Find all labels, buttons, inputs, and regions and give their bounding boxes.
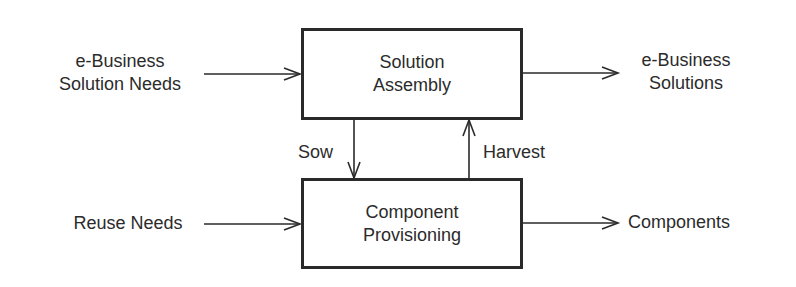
solution-needs-line2: Solution Needs [59,74,181,94]
components-label: Components [628,211,764,234]
solutions-label: e-Business Solutions [628,49,744,95]
components-line1: Components [628,212,730,232]
arrow-reuse-needs-to-provisioning [204,218,300,230]
component-provisioning-line2: Provisioning [363,225,461,245]
arrow-provisioning-to-components [522,217,618,229]
component-provisioning-line1: Component [365,202,458,222]
sow-label: Sow [298,141,333,164]
solutions-line1: e-Business [641,50,730,70]
reuse-needs-label: Reuse Needs [60,212,196,235]
arrow-assembly-to-solutions [522,67,618,79]
solution-assembly-line2: Assembly [373,75,451,95]
solutions-line2: Solutions [649,73,723,93]
reuse-needs-line1: Reuse Needs [73,213,182,233]
solution-needs-line1: e-Business [75,51,164,71]
arrow-harvest-up [463,120,475,179]
component-provisioning-box: Component Provisioning [301,178,523,269]
solution-assembly-label: Solution Assembly [373,51,451,97]
harvest-label: Harvest [483,141,545,164]
component-provisioning-label: Component Provisioning [363,201,461,247]
arrow-solution-needs-to-assembly [204,68,300,80]
solution-needs-label: e-Business Solution Needs [40,50,200,96]
solution-assembly-line1: Solution [379,52,444,72]
solution-assembly-box: Solution Assembly [301,28,523,120]
arrow-sow-down [348,119,360,178]
